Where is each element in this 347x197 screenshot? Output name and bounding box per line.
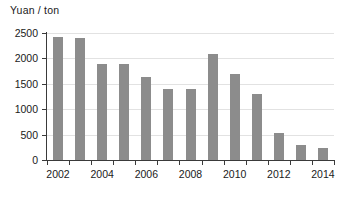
x-axis-tick-mark (135, 161, 136, 165)
x-axis-tick-label: 2014 (311, 168, 334, 180)
x-axis-tick-mark (179, 161, 180, 165)
x-axis-tick-label: 2002 (46, 168, 69, 180)
x-axis-tick-mark (312, 161, 313, 165)
x-axis-tick-mark (290, 161, 291, 165)
y-axis-unit-title: Yuan / ton (10, 4, 59, 16)
bar (186, 89, 196, 160)
bar (141, 77, 151, 160)
x-axis-tick-mark (334, 161, 335, 165)
x-axis-tick-mark (246, 161, 247, 165)
x-axis-line (46, 160, 335, 161)
x-axis-tick-mark (224, 161, 225, 165)
x-axis-tick-mark (91, 161, 92, 165)
y-axis-tick-label: 2000 (15, 53, 38, 63)
bar (318, 148, 328, 160)
bar (296, 145, 306, 160)
bar-chart: Yuan / ton 05001000150020002500 20022004… (0, 0, 347, 197)
bar (208, 54, 218, 160)
x-axis-tick-label: 2004 (91, 168, 114, 180)
plot-area (47, 33, 334, 160)
x-axis-tick-mark (268, 161, 269, 165)
x-axis-tick-mark (202, 161, 203, 165)
bar (119, 64, 129, 160)
x-axis-tick-mark (69, 161, 70, 165)
bar (252, 94, 262, 160)
y-axis-tick-label: 0 (32, 155, 38, 165)
x-axis-tick-label: 2008 (179, 168, 202, 180)
bar (97, 64, 107, 160)
y-axis-tick-label: 1000 (15, 104, 38, 114)
y-axis-tick-label: 500 (20, 130, 38, 140)
x-axis-tick-mark (113, 161, 114, 165)
x-axis-tick-label: 2012 (267, 168, 290, 180)
y-axis-tick-label: 1500 (15, 79, 38, 89)
gridline (47, 84, 334, 85)
gridline (47, 58, 334, 59)
y-axis-tick-label: 2500 (15, 28, 38, 38)
bar (230, 74, 240, 160)
x-axis-tick-label: 2006 (135, 168, 158, 180)
bar (274, 133, 284, 160)
gridline (47, 33, 334, 34)
x-axis-tick-label: 2010 (223, 168, 246, 180)
bar (53, 37, 63, 160)
x-axis-tick-mark (157, 161, 158, 165)
bar (163, 89, 173, 160)
bar (75, 38, 85, 160)
x-axis-tick-mark (47, 161, 48, 165)
